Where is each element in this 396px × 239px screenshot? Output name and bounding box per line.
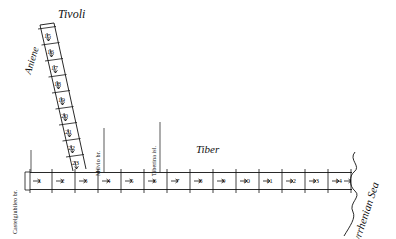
castelgiubileo-bracket — [25, 172, 30, 190]
aniene-mile-18: 18 — [54, 80, 61, 88]
map-figure: 1 2 3 4 5 6 7 8 9 10 11 12 13 14 15 16 1… — [0, 0, 396, 239]
tiber-channel — [30, 173, 352, 190]
tiber-mile-2: 2 — [61, 177, 65, 185]
tiber-mile-6: 6 — [153, 177, 157, 185]
tiber-mile-1: 1 — [38, 177, 42, 185]
tiber-mile-5: 5 — [130, 177, 134, 185]
tiber-flow-arrows — [33, 179, 351, 183]
label-tiber: Tiber — [196, 143, 219, 155]
label-tiberina-isl: Tiberina isl. — [151, 146, 157, 176]
tiber-mile-10: 10 — [243, 177, 250, 185]
aniene-mile-23: 23 — [72, 159, 79, 167]
tiber-mile-11: 11 — [266, 177, 273, 185]
aniene-mile-15: 15 — [44, 32, 51, 40]
label-milvio-br: Milvio br. — [95, 151, 101, 176]
aniene-mile-22: 22 — [68, 144, 75, 152]
tiber-mile-8: 8 — [199, 177, 203, 185]
aniene-mile-16: 16 — [47, 48, 54, 56]
map-vector-layer — [0, 0, 396, 239]
tiber-mile-4: 4 — [107, 177, 111, 185]
tiber-mile-7: 7 — [176, 177, 180, 185]
tiber-mile-12: 12 — [289, 177, 296, 185]
aniene-mile-17: 17 — [51, 64, 58, 72]
tiber-mile-9: 9 — [222, 177, 226, 185]
tiber-mile-13: 13 — [312, 177, 319, 185]
label-tivoli: Tivoli — [58, 7, 85, 22]
aniene-mile-21: 21 — [65, 128, 72, 136]
tiber-mile-14: 14 — [335, 177, 342, 185]
aniene-mile-19: 19 — [58, 96, 65, 104]
tiber-mile-3: 3 — [84, 177, 88, 185]
label-castelgiubileo-br: Castelgiubileo br. — [12, 190, 18, 234]
aniene-mile-20: 20 — [61, 112, 68, 120]
